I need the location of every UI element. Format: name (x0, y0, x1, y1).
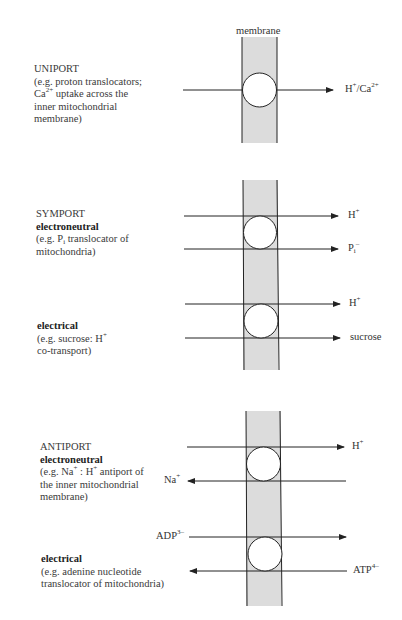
species-label: sucrose (350, 331, 382, 342)
species-label: H+ (352, 440, 364, 451)
uniport-description: UNIPORT (e.g. proton translocators; Ca2+… (34, 63, 142, 126)
membrane-label: membrane (236, 25, 280, 36)
antiport-diagram (187, 411, 347, 606)
symport-title: SYMPORT (36, 208, 129, 221)
antiport-electroneutral-description: ANTIPORT electroneutral (e.g. Na+ : H+ a… (40, 441, 144, 504)
species-label: H+ (349, 297, 361, 308)
antiport-electrical-description: electrical (e.g. adenine nucleotide tran… (41, 553, 164, 591)
species-label: ATP4– (353, 564, 379, 575)
species-label: Pi– (348, 242, 359, 253)
symport-electroneutral-description: SYMPORT electroneutral (e.g. Pi transloc… (36, 208, 129, 258)
species-label: ADP3– (156, 530, 184, 541)
antiport-title: ANTIPORT (40, 441, 144, 454)
uniport-title: UNIPORT (34, 63, 142, 76)
uniport-species-label: H+/Ca2+ (345, 83, 379, 94)
transporter-circle (243, 73, 277, 107)
uniport-diagram (183, 37, 333, 143)
species-label: Na+ (164, 474, 180, 485)
symport-diagram (184, 180, 340, 370)
species-label: H+ (348, 209, 360, 220)
membrane (246, 411, 281, 606)
symport-electrical-description: electrical (e.g. sucrose: H+ co-transpor… (37, 320, 107, 358)
membrane (243, 180, 278, 370)
